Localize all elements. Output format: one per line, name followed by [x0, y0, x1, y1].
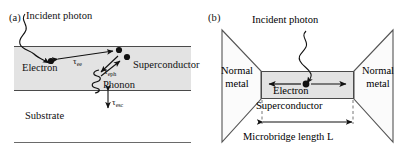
incident-photon-wave-b [299, 31, 311, 83]
electron-dot-right [124, 54, 130, 60]
normal-metal-left-line1: Normal [221, 65, 253, 76]
normal-metal-right-label: Normal metal [355, 64, 401, 90]
figure-container: (a) Incident photon Superconductor Subst… [0, 0, 410, 162]
normal-metal-left-label: Normal metal [214, 64, 260, 90]
superconductor-label-b: Superconductor [256, 100, 322, 111]
electron-dot-left [48, 58, 54, 64]
normal-metal-left-line2: metal [225, 78, 248, 89]
panel-a: (a) Incident photon Superconductor Subst… [0, 0, 205, 162]
microbridge-length-label: Microbridge length L [243, 131, 333, 142]
electron-label-b: Electron [273, 85, 309, 96]
phonon-coil-icon [92, 70, 100, 93]
panel-a-graphics [0, 0, 205, 162]
panel-b: (b) Incident photon [205, 0, 410, 162]
normal-metal-right-line2: metal [366, 78, 389, 89]
electron-dot-top [116, 47, 122, 53]
normal-metal-right-line1: Normal [362, 65, 394, 76]
tau-ee-arrow [58, 51, 113, 59]
incident-photon-wave-a [20, 14, 49, 63]
